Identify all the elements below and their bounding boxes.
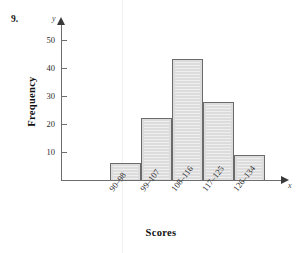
x-axis-title: Scores [101, 227, 221, 238]
bar-108-116 [172, 59, 203, 180]
x-axis-letter: x [288, 181, 292, 190]
y-axis-line [61, 24, 62, 181]
x-axis-line [61, 180, 283, 181]
histogram-figure: 9. y x 50 40 30 20 10 Frequency 90–98 99… [0, 0, 302, 253]
y-tick-mark [61, 40, 67, 41]
y-axis-arrowhead [57, 17, 65, 25]
y-axis-letter: y [52, 14, 56, 23]
y-axis-title: Frequency [26, 57, 37, 147]
y-tick-mark [61, 68, 67, 69]
y-tick-label-10: 10 [33, 147, 55, 157]
y-tick-label-50: 50 [33, 35, 55, 45]
y-tick-mark [61, 96, 67, 97]
plot-area: y x 50 40 30 20 10 Frequency 90–98 99–10… [0, 0, 302, 253]
y-tick-mark [61, 152, 67, 153]
y-tick-mark [61, 124, 67, 125]
